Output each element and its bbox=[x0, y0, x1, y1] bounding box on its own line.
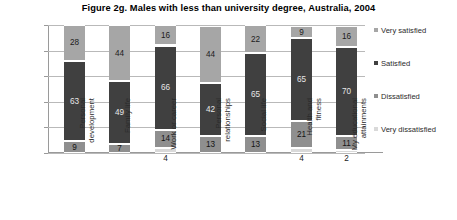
legend-item[interactable]: Satisfied bbox=[374, 59, 410, 68]
legend-label: Dissatisfied bbox=[381, 92, 420, 101]
bar-segment[interactable]: 16 bbox=[336, 26, 357, 46]
bar-segment[interactable]: 28 bbox=[64, 25, 85, 61]
chart-container: Figure 2g. Males with less than universi… bbox=[0, 0, 457, 220]
legend-swatch-icon bbox=[374, 94, 378, 98]
legend-label: Satisfied bbox=[381, 59, 410, 68]
legend-swatch-icon bbox=[374, 61, 378, 65]
x-axis-category-label: Social life bbox=[260, 98, 269, 158]
bar-segment[interactable]: 9 bbox=[291, 26, 312, 38]
legend-label: Very satisfied bbox=[381, 26, 426, 35]
chart-title: Figure 2g. Males with less than universi… bbox=[0, 3, 457, 13]
x-axis-category-label: Personal development bbox=[79, 98, 96, 158]
legend-swatch-icon bbox=[374, 127, 378, 131]
x-axis-category-label: Personal relationships bbox=[215, 98, 232, 158]
bar-value-label: 2 bbox=[336, 154, 357, 163]
x-axis-category-label: My educational attainments bbox=[351, 98, 368, 158]
bar-segment[interactable]: 44 bbox=[109, 25, 130, 81]
x-axis-category-label: Work or career bbox=[170, 98, 179, 158]
legend-item[interactable]: Very satisfied bbox=[374, 26, 426, 35]
bar-value-label: 4 bbox=[155, 154, 176, 163]
bar-segment[interactable]: 16 bbox=[155, 25, 176, 45]
bar-segment[interactable]: 22 bbox=[245, 25, 266, 53]
legend-label: Very dissatisfied bbox=[381, 125, 436, 134]
bar-segment[interactable]: 44 bbox=[200, 26, 221, 82]
legend-item[interactable]: Dissatisfied bbox=[374, 92, 420, 101]
y-axis-tick-mark bbox=[44, 153, 48, 154]
x-axis-category-label: Health and fitness bbox=[306, 98, 323, 158]
x-axis-category-label: Family life bbox=[124, 98, 133, 158]
bar-value-label: 4 bbox=[291, 154, 312, 163]
legend-swatch-icon bbox=[374, 28, 378, 32]
legend-item[interactable]: Very dissatisfied bbox=[374, 125, 436, 134]
